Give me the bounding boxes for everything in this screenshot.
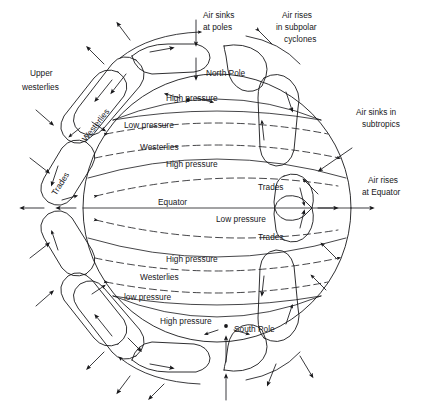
diagram-canvas: Air sinks at poles Air rises in subpolar…	[0, 0, 434, 418]
south-pole-dot	[224, 324, 228, 328]
label-eq-low: Low pressure	[216, 214, 266, 224]
arrow-cell-hadley-se-1	[300, 212, 304, 228]
label-air-sinks-subtropics-l1: Air sinks in	[356, 107, 396, 117]
belt-arc-n-polar-high-lower	[113, 111, 321, 120]
arrow-cell-trades-w-2	[62, 196, 76, 200]
arrow-in-left-lowest	[36, 292, 52, 306]
label-air-rises-subpolar-l1: Air rises	[282, 10, 312, 20]
label-upper-westerlies-l2: westerlies	[21, 82, 59, 92]
arrow-out-bottom-left2	[150, 384, 164, 398]
label-air-sinks-poles-l2: at poles	[203, 22, 232, 32]
arrow-cell-polar-sw-1	[96, 316, 112, 336]
arrow-cell-bottom-left-1	[150, 364, 172, 368]
label-s-polar-high: High pressure	[160, 316, 212, 326]
label-s-westerlies: Westerlies	[140, 272, 179, 282]
label-s-subpolar-low: low pressure	[124, 292, 171, 302]
label-n-subtropical-high: High pressure	[166, 159, 218, 169]
arrow-s-high-left	[206, 330, 218, 334]
arrow-right-lower	[322, 244, 336, 258]
sweep-top-left	[120, 32, 200, 58]
cell-trades-sw	[41, 211, 95, 276]
label-n-polar-high: High pressure	[166, 93, 218, 103]
label-s-trades: Trades	[258, 232, 284, 242]
label-s-subtropical-high: High pressure	[166, 254, 218, 264]
arrow-subtropics-inner	[304, 180, 318, 194]
arrow-cell-top-left-1	[150, 48, 172, 52]
arrow-out-lowerleft	[88, 352, 104, 368]
arrow-out-bottomright	[300, 356, 312, 376]
label-n-trades: Trades	[258, 182, 284, 192]
arrow-subpolar-pointer	[258, 30, 272, 44]
cell-hadley-ne	[274, 174, 313, 220]
arrow-cell-polar-nw-2	[70, 128, 80, 136]
label-air-rises-subpolar-l2: in subpolar	[276, 22, 317, 32]
label-n-westerlies: Westerlies	[140, 142, 179, 152]
label-north-pole: North Pole	[206, 68, 246, 78]
circulation-diagram: Air sinks at poles Air rises in subpolar…	[0, 0, 434, 418]
arrow-cell-trades-sw-1	[52, 232, 58, 250]
label-air-rises-subpolar-l3: cyclones	[284, 34, 316, 44]
belt-arc-n-westerlies-dashed	[95, 145, 339, 158]
arrow-in-left-upper	[36, 110, 52, 124]
label-air-rises-equator-l2: at Equator	[362, 187, 401, 197]
sweep-bottom-left	[120, 358, 200, 384]
arrow-out-bottomleft	[118, 376, 130, 392]
arrow-cell-westerlies-nw-1	[112, 74, 126, 92]
arrow-out-upperleft	[88, 48, 104, 64]
cell-trades-w	[41, 140, 95, 205]
arrow-in-left-mid	[30, 158, 48, 172]
label-south-pole: South Pole	[234, 324, 275, 334]
arrow-cell-polar-nw-1	[96, 80, 112, 100]
arrow-subtropics-pointer	[320, 148, 352, 170]
arrow-out-topleft	[118, 24, 130, 40]
label-air-rises-equator-l1: Air rises	[368, 175, 398, 185]
arrow-cell-hadley-ne-1	[300, 188, 304, 204]
label-air-sinks-poles-l1: Air sinks	[203, 10, 234, 20]
label-equator: Equator	[158, 197, 187, 207]
label-upper-westerlies-l1: Upper	[30, 68, 53, 78]
arrow-out-bottomright-2	[268, 364, 276, 384]
label-air-sinks-subtropics-l2: subtropics	[362, 119, 400, 129]
cell-polar-ne	[258, 74, 299, 166]
label-n-subpolar-low: Low pressure	[124, 120, 174, 130]
arrow-in-left-lower	[30, 244, 48, 258]
arrow-right-lowest	[312, 276, 326, 290]
